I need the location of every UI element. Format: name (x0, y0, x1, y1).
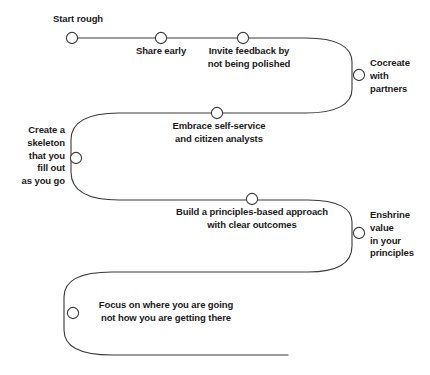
node-label-create-skeleton: Create a skeleton that you fill out as y… (13, 124, 65, 188)
node-circle-invite-feedback[interactable] (237, 32, 248, 43)
diagram-canvas: Start rough Share early Invite feedback … (0, 0, 430, 375)
node-circle-create-skeleton[interactable] (70, 152, 81, 163)
node-circle-enshrine-value[interactable] (353, 227, 364, 238)
node-circle-group (66, 32, 364, 318)
node-label-invite-feedback: Invite feedback by not being polished (208, 45, 291, 71)
node-label-cocreate: Cocreate with partners (370, 57, 410, 95)
node-label-focus-on-where: Focus on where you are going not how you… (99, 299, 233, 325)
node-circle-embrace-self-serve[interactable] (211, 107, 222, 118)
node-label-start-rough: Start rough (53, 13, 103, 26)
node-circle-focus-on-where[interactable] (67, 307, 78, 318)
node-label-embrace-self-serve: Embrace self-service and citizen analyst… (172, 120, 265, 146)
node-label-share-early: Share early (136, 45, 186, 58)
node-circle-share-early[interactable] (155, 32, 166, 43)
node-label-build-principles: Build a principles-based approach with c… (176, 206, 328, 232)
node-circle-build-principles[interactable] (246, 193, 257, 204)
node-circle-cocreate[interactable] (353, 69, 364, 80)
node-label-enshrine-value: Enshrine value in your principles (370, 209, 414, 260)
node-circle-start-rough[interactable] (66, 32, 77, 43)
